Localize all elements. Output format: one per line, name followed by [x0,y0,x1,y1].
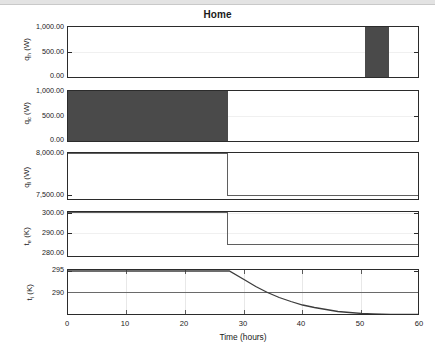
panel-ql-trace-high [68,153,228,154]
panel-ql-tick-left [68,195,72,196]
panel-qc [67,90,419,142]
figure-root: Home qh (W) 1,000.00 500.00 0.00 qc (W) … [0,0,435,352]
panel-ql [67,152,419,200]
panel-te-trace-high [68,212,228,213]
panel-ti-trace [68,270,419,315]
panel-te-axis-label-sub: e [26,240,32,243]
xtick-40: 40 [289,319,313,328]
panel-qh-tick-left [68,52,72,53]
panel-te [67,211,419,257]
panel-qc-tick-right [414,116,418,117]
panel-qh-ytick-0: 0.00 [14,71,64,80]
panel-te-tick-left-290 [68,233,72,234]
panel-ql-trace-low [227,195,419,196]
xtick-0: 0 [55,319,79,328]
panel-ql-axis-label-unit: (W) [22,167,31,182]
panel-te-ytick-290: 290.00 [20,228,64,237]
panel-qh [67,26,419,78]
x-axis-label: Time (hours) [167,332,319,342]
panel-te-ytick-300: 300.00 [20,208,64,217]
panel-qc-axis-label-main: q [22,120,31,124]
panel-ql-axis-label-main: q [22,183,31,187]
xtick-50: 50 [348,319,372,328]
panel-te-trace-drop [227,212,228,245]
panel-ti-ytick-290: 290 [28,288,64,297]
panel-ti-axis-label-main: t [25,298,34,300]
xtick-60: 60 [407,319,431,328]
xtick-20: 20 [172,319,196,328]
panel-qh-on-block [365,27,389,78]
panel-te-axis-label-main: t [22,243,31,245]
panel-ql-ytick-7500: 7,500.00 [12,190,64,199]
panel-ql-trace-drop [227,153,228,196]
panel-te-trace-low [227,244,419,245]
window-titlebar [0,0,435,5]
panel-ti-ytick-295: 295 [28,265,64,274]
xtick-30: 30 [231,319,255,328]
panel-qc-ytick-1000: 1,000.00 [14,86,64,95]
panel-ql-ytick-8000: 8,000.00 [12,148,64,157]
panel-te-tick-right-290 [414,233,418,234]
panel-qh-ytick-500: 500.00 [14,47,64,56]
panel-te-tick-right-300 [414,213,418,214]
panel-qh-ytick-1000: 1,000.00 [14,22,64,31]
panel-qc-on-block [68,91,228,142]
chart-title: Home [0,9,435,20]
panel-te-gridline-290 [68,233,418,234]
panel-qc-ytick-0: 0.00 [14,135,64,144]
panel-qh-tick-right [414,52,418,53]
panel-qc-ytick-500: 500.00 [14,111,64,120]
xtick-10: 10 [113,319,137,328]
panel-ti [67,269,419,315]
panel-qh-axis-label-main: q [22,56,31,60]
panel-te-ytick-280: 280.00 [20,248,64,257]
